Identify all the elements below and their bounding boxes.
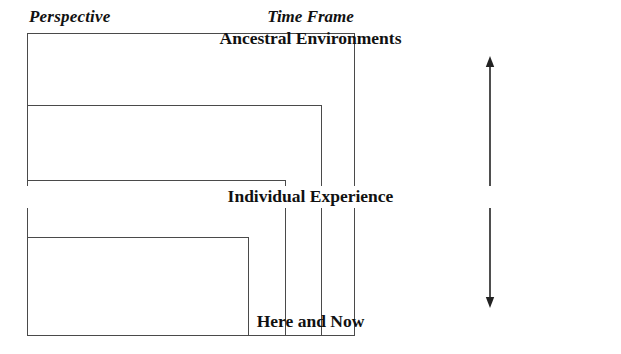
axis-label-here-and-now: Here and Now (0, 313, 621, 331)
time-frame-title: Time Frame (0, 8, 621, 25)
axis-label-individual-experience: Individual Experience (0, 186, 621, 208)
axis-label-ancestral-environments: Ancestral Environments (0, 30, 621, 48)
figure-canvas: Perspective Time Frame Ancestral Environ… (0, 0, 621, 354)
